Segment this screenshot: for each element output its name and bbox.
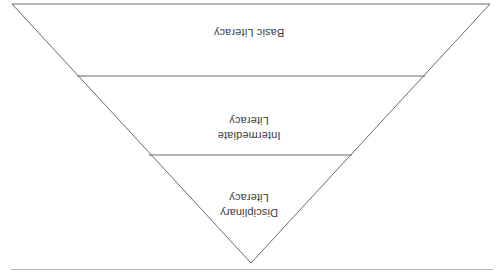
band-label-intermediate: Intermediate Literacy — [183, 113, 315, 143]
scanned-figure-page: Disciplinary Literacy Intermediate Liter… — [0, 0, 504, 277]
band-label-basic: Basic Literacy — [189, 25, 309, 40]
band-label-disciplinary: Disciplinary Literacy — [184, 190, 314, 220]
page-horizontal-rule — [11, 269, 493, 270]
inverted-pyramid-figure: Disciplinary Literacy Intermediate Liter… — [0, 0, 504, 277]
